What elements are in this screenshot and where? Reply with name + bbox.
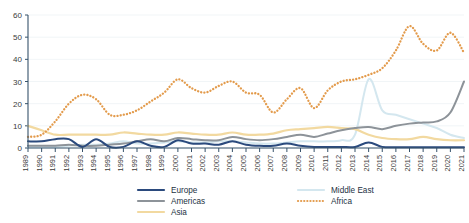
x-axis-tick-label: 2005 — [239, 155, 248, 171]
y-axis-tick-label: 40 — [13, 55, 22, 64]
x-axis-tick-label: 2020 — [443, 155, 452, 171]
x-axis-tick-label: 2002 — [198, 155, 207, 171]
legend-label: Americas — [171, 197, 205, 206]
x-axis-tick-label: 1997 — [130, 155, 139, 171]
y-axis-tick-label: 0 — [18, 144, 23, 153]
x-axis-tick-label: 2010 — [307, 155, 316, 171]
y-axis-tick-label: 30 — [13, 78, 22, 87]
legend-item-asia[interactable]: Asia — [138, 208, 187, 217]
x-axis-tick-label: 2015 — [375, 155, 384, 171]
series-line-middle-east — [28, 79, 464, 147]
x-axis-tick-label: 1994 — [89, 155, 98, 171]
x-axis-tick-label: 2003 — [212, 155, 221, 171]
legend-label: Africa — [331, 197, 352, 206]
legend-label: Asia — [171, 208, 187, 217]
x-axis-tick-label: 1992 — [62, 155, 71, 171]
x-axis-tick-label: 2000 — [171, 155, 180, 171]
x-axis-ticks — [28, 148, 464, 152]
x-axis-tick-label: 2014 — [362, 155, 371, 171]
line-chart: 0102030405060 19891990199119921993199419… — [0, 0, 469, 223]
y-axis-labels: 0102030405060 — [13, 11, 22, 153]
chart-legend: EuropeAmericasAsiaMiddle EastAfrica — [138, 186, 375, 217]
y-axis-tick-label: 50 — [13, 33, 22, 42]
x-axis-tick-label: 1999 — [157, 155, 166, 171]
x-axis-tick-label: 2008 — [280, 155, 289, 171]
x-axis-tick-label: 1996 — [116, 155, 125, 171]
x-axis-tick-label: 2017 — [403, 155, 412, 171]
x-axis-tick-label: 1995 — [103, 155, 112, 171]
x-axis-tick-label: 2004 — [225, 155, 234, 171]
x-axis-tick-label: 2018 — [416, 155, 425, 171]
y-axis-tick-label: 10 — [13, 122, 22, 131]
x-axis-tick-label: 2021 — [457, 155, 466, 171]
x-axis-tick-label: 2007 — [266, 155, 275, 171]
x-axis-tick-label: 2001 — [185, 155, 194, 171]
x-axis-tick-label: 2009 — [294, 155, 303, 171]
x-axis-tick-label: 1989 — [21, 155, 30, 171]
legend-label: Europe — [171, 186, 198, 195]
x-axis-tick-label: 1990 — [35, 155, 44, 171]
legend-item-europe[interactable]: Europe — [138, 186, 198, 195]
x-axis-tick-label: 2013 — [348, 155, 357, 171]
y-axis-tick-label: 20 — [13, 100, 22, 109]
x-axis-tick-label: 1998 — [144, 155, 153, 171]
legend-item-americas[interactable]: Americas — [138, 197, 205, 206]
legend-label: Middle East — [331, 186, 375, 195]
x-axis-tick-label: 2019 — [430, 155, 439, 171]
legend-item-africa[interactable]: Africa — [298, 197, 352, 206]
x-axis-labels: 1989199019911992199319941995199619971998… — [21, 155, 466, 171]
plot-series — [28, 26, 464, 148]
gridlines — [28, 15, 464, 148]
series-line-americas — [28, 82, 464, 146]
x-axis-tick-label: 1993 — [76, 155, 85, 171]
x-axis-tick-label: 2012 — [334, 155, 343, 171]
chart-container: 0102030405060 19891990199119921993199419… — [0, 0, 469, 223]
y-axis-tick-label: 60 — [13, 11, 22, 20]
x-axis-tick-label: 2006 — [253, 155, 262, 171]
x-axis-tick-label: 2016 — [389, 155, 398, 171]
x-axis-tick-label: 1991 — [48, 155, 57, 171]
legend-item-middle-east[interactable]: Middle East — [298, 186, 375, 195]
x-axis-tick-label: 2011 — [321, 155, 330, 171]
